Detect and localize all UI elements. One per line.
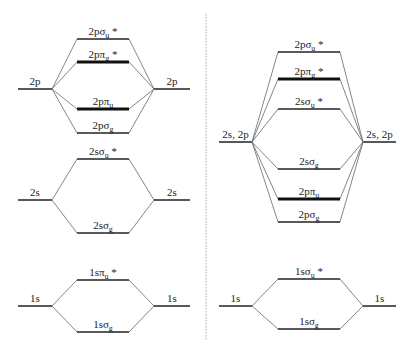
correlation-line xyxy=(340,79,363,142)
correlation-line xyxy=(252,79,278,142)
molecular-orbital-label: 1sσg xyxy=(93,318,113,333)
molecular-orbital-label: 2sσu * xyxy=(89,145,117,160)
molecular-orbital-label: 2pσu * xyxy=(294,38,323,53)
correlation-line xyxy=(52,280,77,306)
correlation-line xyxy=(340,279,363,306)
molecular-orbital-label: 2pσg xyxy=(299,208,320,223)
correlation-line xyxy=(252,142,278,199)
atomic-orbital-label-right: 1s xyxy=(167,292,177,304)
atomic-orbital-label-left: 1s xyxy=(231,292,241,304)
atomic-orbital-label-left: 2s xyxy=(30,186,40,198)
atomic-orbital-label-right: 2s xyxy=(167,186,177,198)
correlation-line xyxy=(52,62,77,89)
atomic-orbital-label-right: 1s xyxy=(375,292,385,304)
orbital-group-1s: 1s1s1sσu *1sσg xyxy=(219,265,396,330)
correlation-line xyxy=(129,280,154,306)
atomic-orbital-label-right: 2s, 2p xyxy=(366,128,393,140)
orbital-group-2p: 2p2p2pσu *2pπg *2pπu2pσg xyxy=(18,25,190,134)
molecular-orbital-label: 1sσg xyxy=(299,315,319,330)
orbital-group-2s: 2s2s2sσu *2sσg xyxy=(18,145,190,234)
correlation-line xyxy=(52,89,77,109)
correlation-line xyxy=(252,306,278,329)
correlation-line xyxy=(52,89,77,133)
correlation-line xyxy=(52,159,77,200)
atomic-orbital-label-left: 2s, 2p xyxy=(222,128,249,140)
correlation-line xyxy=(340,142,363,199)
correlation-line xyxy=(129,200,154,233)
molecular-orbital-label: 2sσg xyxy=(299,155,319,170)
correlation-line xyxy=(252,52,278,142)
orbital-group-1s: 1s1s1sπu *1sσg xyxy=(18,266,190,333)
correlation-line xyxy=(52,306,77,332)
correlation-line xyxy=(340,109,363,142)
molecular-orbital-label: 2pσg xyxy=(93,119,114,134)
left-panel-homonuclear-no-mixing: 2p2p2pσu *2pπg *2pπu2pσg2s2s2sσu *2sσg1s… xyxy=(18,25,190,333)
molecular-orbital-label: 2sσg xyxy=(93,219,113,234)
correlation-line xyxy=(129,39,154,89)
atomic-orbital-label-right: 2p xyxy=(167,75,179,87)
correlation-line xyxy=(340,142,363,222)
correlation-line xyxy=(252,279,278,306)
correlation-line xyxy=(252,142,278,169)
correlation-line xyxy=(340,142,363,169)
correlation-line xyxy=(252,142,278,222)
correlation-line xyxy=(129,89,154,109)
atomic-orbital-label-left: 1s xyxy=(30,292,40,304)
atomic-orbital-label-left: 2p xyxy=(30,75,42,87)
molecular-orbital-label: 2sσu * xyxy=(295,95,323,110)
right-panel-sp-mixing: 2s, 2p2s, 2p2pσu *2pπg *2sσu *2sσg2pπu2p… xyxy=(219,38,396,330)
molecular-orbital-label: 2pσu * xyxy=(88,25,117,40)
mo-diagram: 2p2p2pσu *2pπg *2pπu2pσg2s2s2sσu *2sσg1s… xyxy=(0,0,413,351)
correlation-line xyxy=(340,306,363,329)
orbital-group-2s-2p: 2s, 2p2s, 2p2pσu *2pπg *2sσu *2sσg2pπu2p… xyxy=(219,38,396,223)
correlation-line xyxy=(129,62,154,89)
correlation-line xyxy=(252,109,278,142)
molecular-orbital-label: 1sσu * xyxy=(295,265,323,280)
molecular-orbital-label: 1sπu * xyxy=(89,266,117,281)
correlation-line xyxy=(52,200,77,233)
correlation-line xyxy=(340,52,363,142)
correlation-line xyxy=(129,306,154,332)
correlation-line xyxy=(129,159,154,200)
correlation-line xyxy=(129,89,154,133)
correlation-line xyxy=(52,39,77,89)
